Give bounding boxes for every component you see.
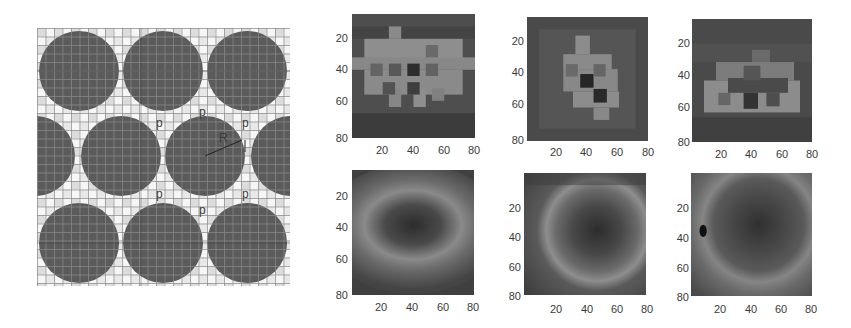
xtick: 60 [769,304,793,315]
ytick: 80 [502,135,524,146]
ytick: 80 [499,291,521,302]
xtick: 20 [708,304,732,315]
ytick: 20 [326,33,348,44]
xtick: 60 [770,149,794,160]
heatmap-bottom-3-axes [691,173,812,296]
ytick: 80 [668,137,690,148]
ytick: 60 [668,102,690,113]
ytick: 40 [326,222,348,233]
heatmap-top-3-axes [692,19,812,142]
figure: p p p R p p p [0,0,851,328]
xtick: 40 [574,147,598,158]
xtick: 20 [544,147,568,158]
xtick: 80 [799,304,823,315]
xtick: 20 [709,149,733,160]
xtick: 60 [605,304,629,315]
heatmap-top-2-axes [527,17,648,141]
label-p-upper-left: p [156,117,163,129]
ytick: 60 [326,254,348,265]
label-p-top: p [199,106,206,118]
label-p-bottom: p [199,204,206,216]
ytick: 20 [667,203,689,214]
ytick: 60 [326,96,348,107]
xtick: 20 [370,145,394,156]
heatmap-bottom-1-axes [352,170,474,295]
circle-lattice-panel: p p p R p p p [37,28,290,286]
xtick: 40 [739,304,763,315]
xtick: 20 [369,302,393,313]
ytick: 80 [667,292,689,303]
ytick: 40 [502,67,524,78]
label-radius-R: R [219,132,228,144]
xtick: 60 [431,302,455,313]
xtick: 80 [635,304,659,315]
xtick: 40 [401,145,425,156]
ytick: 80 [326,290,348,301]
xtick: 60 [432,145,456,156]
xtick: 80 [636,147,660,158]
heatmap-bottom-2-axes [524,173,646,295]
xtick: 40 [575,304,599,315]
xtick: 40 [739,149,763,160]
heatmap-top-1-axes [352,14,475,138]
ytick: 20 [326,191,348,202]
lattice-graphic [37,28,290,286]
xtick: 20 [544,304,568,315]
ytick: 40 [499,232,521,243]
xtick: 80 [462,145,486,156]
ytick: 60 [667,263,689,274]
xtick: 80 [800,149,824,160]
xtick: 80 [461,302,485,313]
ytick: 20 [502,36,524,47]
ytick: 40 [668,70,690,81]
ytick: 40 [667,233,689,244]
ytick: 20 [668,38,690,49]
ytick: 40 [326,64,348,75]
ytick: 60 [502,99,524,110]
label-p-lower-left: p [156,188,163,200]
xtick: 40 [400,302,424,313]
ytick: 20 [499,203,521,214]
label-p-upper-right: p [242,117,249,129]
label-p-lower-right: p [242,188,249,200]
ytick: 60 [499,262,521,273]
xtick: 60 [605,147,629,158]
ytick: 80 [326,133,348,144]
